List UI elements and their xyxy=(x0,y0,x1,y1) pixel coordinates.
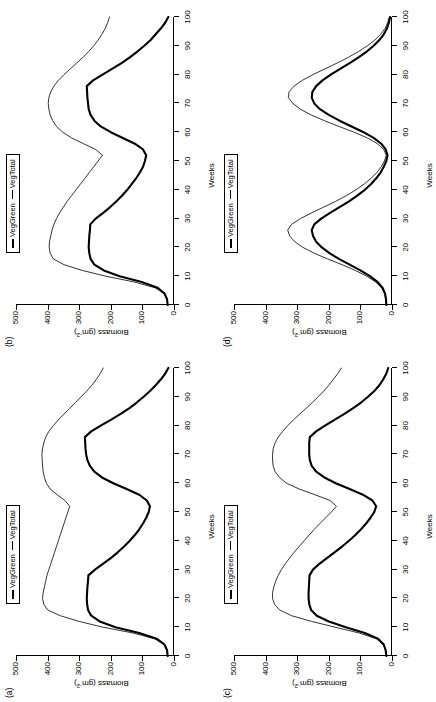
y-axis-tick-label: 0 xyxy=(388,662,396,692)
x-axis-tick xyxy=(392,597,397,598)
plot-area-d: VegGreen VegTotal 0100200300400500010203… xyxy=(234,17,392,305)
x-axis-tick xyxy=(392,367,397,368)
x-axis-tick xyxy=(174,160,179,161)
multi-panel-figure: (a) Biomass (gm-2) VegGreen VegTotal xyxy=(0,0,436,702)
x-axis-tick-label: 0 xyxy=(184,644,192,668)
y-axis-tick xyxy=(111,656,112,661)
x-axis-tick-label: 0 xyxy=(402,644,410,668)
legend-swatch-vegtotal-icon-b xyxy=(12,190,13,199)
x-axis-tick-label: 0 xyxy=(402,293,410,317)
legend-swatch-veggreen-icon-c xyxy=(230,590,232,599)
x-axis-title-c: Weeks xyxy=(425,351,434,702)
y-axis-tick-label: 300 xyxy=(293,311,301,341)
legend-swatch-veggreen-icon-d xyxy=(230,239,232,248)
x-axis-tick-label: 90 xyxy=(184,34,192,58)
legend-label-vegtotal-c: VegTotal xyxy=(226,510,235,539)
x-axis-tick-label: 50 xyxy=(184,149,192,173)
y-axis-tick-label: 300 xyxy=(75,662,83,692)
legend-swatch-vegtotal-icon-d xyxy=(230,190,231,199)
y-axis-tick xyxy=(360,305,361,310)
y-axis-tick-label: 100 xyxy=(356,311,364,341)
x-axis-tick xyxy=(174,218,179,219)
legend-c: VegGreen VegTotal xyxy=(224,505,238,604)
x-axis-tick xyxy=(174,275,179,276)
x-axis-tick xyxy=(392,275,397,276)
x-axis-tick-label: 90 xyxy=(184,385,192,409)
y-axis-title-text-d: Biomass (gm xyxy=(300,328,347,337)
y-axis-title-text-a: Biomass (gm xyxy=(82,679,129,688)
x-axis-tick xyxy=(392,160,397,161)
x-axis-tick xyxy=(392,102,397,103)
legend-d: VegGreen VegTotal xyxy=(224,154,238,253)
panel-c: (c) Biomass (gm-2) VegGreen VegTotal xyxy=(218,351,436,702)
x-axis-tick xyxy=(392,396,397,397)
y-axis-tick-label: 400 xyxy=(44,311,52,341)
y-axis-tick-label: 500 xyxy=(12,662,20,692)
y-axis-tick xyxy=(142,305,143,310)
x-axis-tick xyxy=(174,45,179,46)
y-axis-tick xyxy=(79,305,80,310)
x-axis-tick xyxy=(392,482,397,483)
panel-b: (b) Biomass (gm-2) VegGreen VegTotal xyxy=(0,0,218,351)
x-axis-tick xyxy=(174,396,179,397)
y-axis-tick-label: 500 xyxy=(230,662,238,692)
x-axis-tick-label: 60 xyxy=(184,120,192,144)
legend-item-veggreen-a: VegGreen xyxy=(8,554,17,599)
x-axis-tick xyxy=(174,569,179,570)
series-line-vegtotal xyxy=(288,17,390,305)
y-axis-tick xyxy=(142,656,143,661)
x-axis-title-b: Weeks xyxy=(207,0,216,351)
x-axis-tick xyxy=(392,626,397,627)
panel-a: (a) Biomass (gm-2) VegGreen VegTotal xyxy=(0,351,218,702)
y-axis-tick-label: 300 xyxy=(293,662,301,692)
legend-label-veggreen-b: VegGreen xyxy=(8,203,17,237)
x-axis-tick-label: 70 xyxy=(184,91,192,115)
legend-item-vegtotal-c: VegTotal xyxy=(226,510,235,550)
x-axis-tick xyxy=(392,569,397,570)
x-axis-tick xyxy=(392,45,397,46)
y-axis-tick xyxy=(297,305,298,310)
x-axis-tick-label: 80 xyxy=(184,414,192,438)
x-axis-tick xyxy=(174,482,179,483)
y-axis-tick xyxy=(79,656,80,661)
x-axis-tick-label: 50 xyxy=(402,500,410,524)
x-axis-tick xyxy=(392,74,397,75)
x-axis-tick xyxy=(392,511,397,512)
x-axis-tick-label: 100 xyxy=(184,5,192,29)
x-axis-tick-label: 100 xyxy=(402,356,410,380)
x-axis-title-d: Weeks xyxy=(425,0,434,351)
legend-label-vegtotal-a: VegTotal xyxy=(8,510,17,539)
x-axis-tick xyxy=(392,16,397,17)
y-axis-tick xyxy=(234,305,235,310)
y-axis-tick xyxy=(392,656,393,661)
legend-swatch-vegtotal-icon-c xyxy=(230,541,231,550)
legend-swatch-vegtotal-icon-a xyxy=(12,541,13,550)
x-axis-title-a: Weeks xyxy=(207,351,216,702)
x-axis-tick xyxy=(174,453,179,454)
legend-swatch-veggreen-icon-b xyxy=(12,239,14,248)
legend-label-veggreen-d: VegGreen xyxy=(226,203,235,237)
x-axis-tick-label: 100 xyxy=(184,356,192,380)
x-axis-tick-label: 0 xyxy=(184,293,192,317)
x-axis-tick xyxy=(174,597,179,598)
y-axis-tick xyxy=(16,305,17,310)
x-axis-tick-label: 60 xyxy=(184,471,192,495)
legend-a: VegGreen VegTotal xyxy=(6,505,20,604)
legend-item-vegtotal-a: VegTotal xyxy=(8,510,17,550)
x-axis-tick-label: 40 xyxy=(402,529,410,553)
x-axis-tick xyxy=(174,131,179,132)
x-axis-tick xyxy=(174,189,179,190)
x-axis-tick xyxy=(174,246,179,247)
x-axis-tick-label: 10 xyxy=(184,615,192,639)
y-axis-tick xyxy=(174,305,175,310)
y-axis-tick-label: 0 xyxy=(170,662,178,692)
x-axis-tick xyxy=(174,74,179,75)
x-axis-tick-label: 10 xyxy=(184,264,192,288)
y-axis-tick xyxy=(297,656,298,661)
legend-label-veggreen-c: VegGreen xyxy=(226,554,235,588)
series-line-veggreen xyxy=(85,368,168,656)
x-axis-tick-label: 30 xyxy=(402,207,410,231)
series-line-veggreen xyxy=(312,17,390,305)
y-axis-tick-label: 400 xyxy=(44,662,52,692)
y-axis-tick xyxy=(16,656,17,661)
